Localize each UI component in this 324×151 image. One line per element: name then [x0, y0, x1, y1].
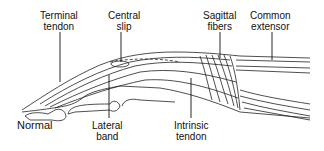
label-central-slip: Central slip — [108, 10, 140, 32]
label-terminal-tendon: Terminal tendon — [40, 10, 78, 32]
label-common-extensor: Common extensor — [250, 10, 291, 32]
label-sagittal-fibers: Sagittal fibers — [203, 10, 236, 32]
label-lateral-band: Lateral band — [92, 120, 123, 142]
caption-normal: Normal — [17, 120, 52, 131]
label-intrinsic-tendon: Intrinsic tendon — [174, 120, 208, 142]
